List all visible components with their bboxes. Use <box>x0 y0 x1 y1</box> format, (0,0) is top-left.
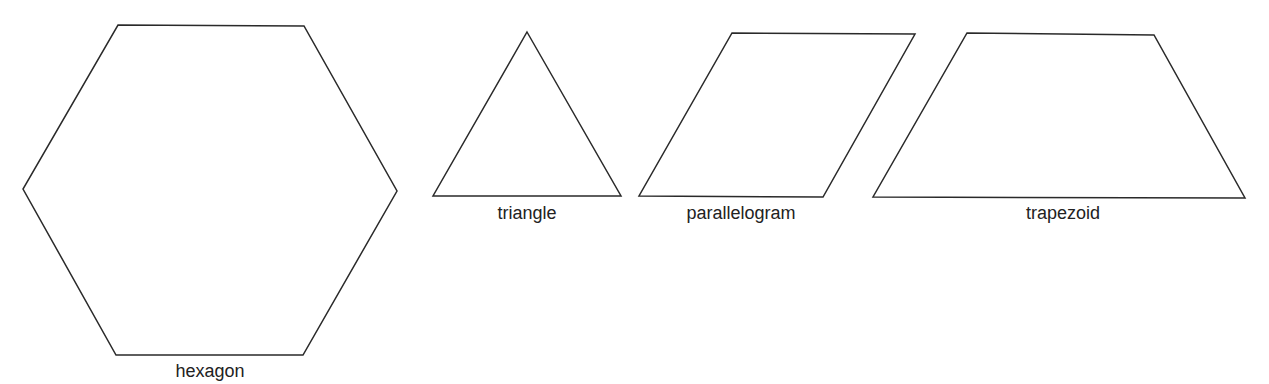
parallelogram-shape <box>639 33 915 197</box>
trapezoid-label: trapezoid <box>1026 204 1100 222</box>
shapes-canvas <box>0 0 1269 384</box>
parallelogram-label: parallelogram <box>686 204 795 222</box>
hexagon-shape <box>23 25 397 355</box>
triangle-shape <box>433 32 621 196</box>
triangle-label: triangle <box>497 204 556 222</box>
hexagon-label: hexagon <box>175 362 244 380</box>
trapezoid-shape <box>873 33 1245 198</box>
